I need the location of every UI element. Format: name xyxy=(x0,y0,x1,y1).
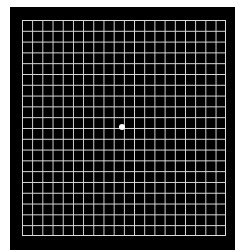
center-fixation-dot xyxy=(119,124,125,130)
